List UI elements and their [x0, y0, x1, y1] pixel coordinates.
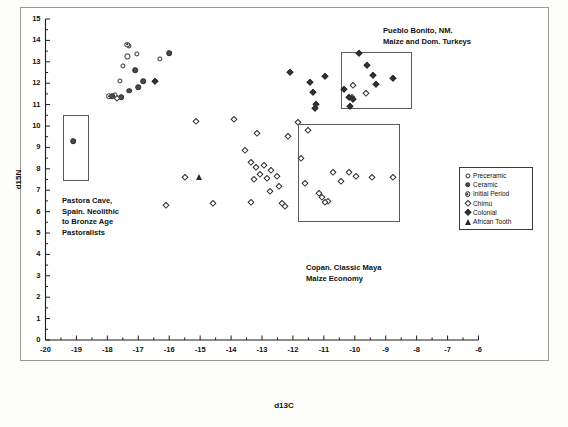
marker-open-diamond [251, 176, 257, 182]
legend-marker-open-diamond-icon [463, 199, 472, 208]
marker-open-diamond [254, 130, 260, 136]
legend-marker-open-circle-icon [463, 171, 472, 180]
marker-open-diamond [231, 115, 237, 121]
legend-item-colonial[interactable]: Colonial [463, 208, 530, 217]
legend-item-preceramic[interactable]: Preceramic [463, 171, 530, 180]
marker-fill-circle [132, 68, 138, 74]
y-tick-label: 14 [21, 35, 41, 44]
legend-item-initial-period[interactable]: Initial Period [463, 189, 530, 198]
x-tick-label: -13 [250, 345, 274, 354]
marker-open-diamond [253, 163, 259, 169]
data-point [353, 173, 360, 180]
data-point [266, 188, 273, 195]
legend-item-ceramic[interactable]: Ceramic [463, 180, 530, 189]
x-axis-title: d13C [244, 401, 324, 410]
y-tick-label: 4 [21, 249, 41, 258]
y-tick-label: 0 [21, 335, 41, 344]
data-point [311, 105, 318, 112]
data-point [248, 199, 255, 206]
data-point [310, 88, 317, 95]
data-point [163, 202, 170, 209]
data-point [322, 72, 329, 79]
data-point [152, 78, 159, 85]
y-tick-label: 5 [21, 228, 41, 237]
legend-item-african-tooth[interactable]: African Tooth [463, 217, 530, 226]
y-tick-label: 6 [21, 207, 41, 216]
marker-fill-triangle [196, 174, 202, 180]
data-point [356, 50, 363, 57]
data-point [294, 118, 301, 125]
x-tick-label: -20 [34, 345, 58, 354]
data-point [209, 200, 216, 207]
marker-open-diamond [464, 200, 470, 206]
marker-fill-diamond [370, 71, 376, 77]
data-point [390, 75, 397, 82]
marker-open-diamond [322, 199, 328, 205]
marker-open-diamond [263, 175, 269, 181]
x-tick-label: -19 [64, 345, 88, 354]
x-tick-label: -14 [219, 345, 243, 354]
data-point [341, 85, 348, 92]
marker-fill-circle [465, 182, 471, 188]
y-tick-label: 7 [21, 185, 41, 194]
annotation-copan: Copan. Classic Maya Maize Economy [306, 263, 382, 284]
marker-fill-diamond [341, 85, 347, 91]
data-point [165, 49, 173, 57]
data-point [133, 51, 141, 59]
marker-fill-diamond [322, 72, 328, 78]
marker-open-circle [117, 78, 122, 83]
data-point [368, 174, 375, 181]
marker-circle-dot [106, 93, 112, 99]
data-point [370, 71, 377, 78]
marker-fill-diamond [390, 75, 396, 81]
marker-open-diamond [305, 127, 311, 133]
data-point [373, 81, 380, 88]
marker-open-circle [465, 173, 470, 178]
marker-fill-diamond [347, 102, 353, 108]
y-tick-label: 1 [21, 314, 41, 323]
marker-open-diamond [350, 82, 356, 88]
data-point [302, 179, 309, 186]
x-tick-label: -11 [312, 345, 336, 354]
data-point [260, 161, 267, 168]
marker-fill-diamond [464, 209, 470, 215]
marker-fill-diamond [152, 78, 158, 84]
x-tick-label: -6 [467, 345, 491, 354]
marker-open-diamond [362, 90, 368, 96]
legend-item-label: Chimú [473, 199, 492, 208]
data-point [181, 174, 188, 181]
marker-circle-dot [465, 191, 471, 197]
marker-fill-circle [71, 138, 77, 144]
x-tick-label: -10 [343, 345, 367, 354]
marker-open-diamond [345, 169, 351, 175]
legend-item-chim-[interactable]: Chimú [463, 199, 530, 208]
marker-fill-diamond [287, 69, 293, 75]
marker-open-diamond [242, 146, 248, 152]
data-point [124, 53, 132, 61]
marker-fill-circle [135, 85, 141, 91]
data-point [113, 95, 120, 102]
legend-item-label: Initial Period [473, 189, 509, 198]
data-point [263, 175, 270, 182]
marker-open-diamond [338, 177, 344, 183]
data-point [307, 79, 314, 86]
data-point [338, 177, 345, 184]
marker-open-diamond [285, 132, 291, 138]
data-point [254, 130, 261, 137]
scatter-plot-figure: -20-19-18-17-16-15-14-13-12-11-10-9-8-7-… [0, 0, 568, 427]
legend-item-label: Ceramic [473, 180, 498, 189]
data-point [364, 62, 371, 69]
marker-fill-diamond [356, 50, 362, 56]
figure-caption-area [0, 361, 568, 427]
data-point [242, 146, 249, 153]
data-point [231, 115, 238, 122]
marker-fill-circle [126, 88, 132, 94]
legend-marker-circle-dot-icon [463, 189, 472, 198]
data-point [131, 67, 139, 75]
marker-fill-diamond [310, 89, 316, 95]
annotation-pueblo-bonito: Pueblo Bonito, NM. Maize and Dom. Turkey… [383, 26, 471, 47]
data-point [125, 87, 133, 95]
data-point [116, 77, 124, 85]
data-point [119, 62, 127, 70]
legend-item-label: Preceramic [473, 171, 506, 180]
